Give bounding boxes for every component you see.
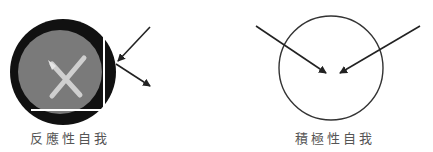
incoming-arrow: [118, 27, 150, 61]
proactive-self-label: 積極性自我: [295, 128, 375, 147]
reactive-self-diagram: [10, 19, 150, 125]
proactive-circle: [279, 16, 383, 120]
incoming-arrow-right: [340, 26, 420, 73]
reactive-self-label: 反應性自我: [30, 128, 110, 147]
proactive-self-diagram: [256, 16, 420, 120]
incoming-arrow-left: [256, 26, 326, 73]
outgoing-arrow: [116, 64, 150, 86]
